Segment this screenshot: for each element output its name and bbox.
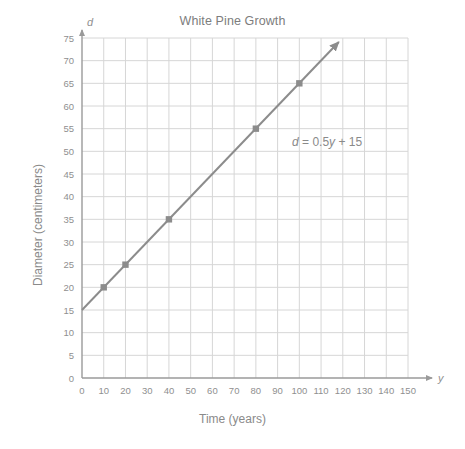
axis-variable-labels: dy: [87, 16, 445, 384]
x-tick-label: 80: [251, 385, 262, 396]
x-tick-label: 50: [185, 385, 196, 396]
y-tick-label: 65: [63, 78, 74, 89]
x-axis-variable-label: y: [437, 372, 445, 384]
y-tick-label: 40: [63, 191, 74, 202]
x-tick-label: 20: [120, 385, 131, 396]
y-tick-label: 55: [63, 123, 74, 134]
y-tick-label: 15: [63, 305, 74, 316]
y-axis-variable-label: d: [87, 16, 94, 28]
x-tick-label: 70: [229, 385, 240, 396]
y-tick-label: 75: [63, 33, 74, 44]
x-tick-label: 140: [378, 385, 394, 396]
x-tick-label: 60: [207, 385, 218, 396]
data-point-marker: [296, 80, 302, 86]
equation-annotation: d = 0.5y + 15: [292, 135, 362, 149]
x-tick-label: 120: [335, 385, 351, 396]
x-axis-title: Time (years): [0, 412, 465, 426]
y-axis-title: Diameter (centimeters): [31, 125, 45, 325]
data-point-marker: [101, 284, 107, 290]
chart-plot-area: 0102030405060708090100110120130140150 05…: [0, 0, 465, 449]
y-tick-label: 45: [63, 169, 74, 180]
x-tick-label: 10: [98, 385, 109, 396]
chart-container: White Pine Growth 0102030405060708090100…: [0, 0, 465, 449]
data-point-marker: [122, 261, 128, 267]
x-tick-labels: 0102030405060708090100110120130140150: [79, 385, 416, 396]
y-tick-label: 70: [63, 55, 74, 66]
x-tick-label: 90: [272, 385, 283, 396]
equation-text: d = 0.5y + 15: [292, 135, 362, 149]
axis-lines: [82, 30, 432, 378]
x-tick-label: 100: [291, 385, 307, 396]
x-tick-label: 130: [357, 385, 373, 396]
y-tick-label: 0: [69, 373, 74, 384]
y-tick-label: 60: [63, 101, 74, 112]
x-tick-label: 150: [400, 385, 416, 396]
grid-lines: [82, 38, 408, 378]
y-tick-label: 10: [63, 327, 74, 338]
x-tick-label: 110: [313, 385, 328, 396]
y-tick-labels: 051015202530354045505560657075: [63, 33, 74, 384]
y-tick-label: 35: [63, 214, 74, 225]
y-tick-label: 30: [63, 237, 74, 248]
x-tick-label: 30: [142, 385, 153, 396]
y-tick-label: 5: [69, 350, 74, 361]
x-tick-label: 0: [79, 385, 84, 396]
y-tick-label: 25: [63, 259, 74, 270]
y-tick-label: 50: [63, 146, 74, 157]
data-point-marker: [253, 125, 259, 131]
y-tick-label: 20: [63, 282, 74, 293]
data-point-marker: [166, 216, 172, 222]
x-tick-label: 40: [164, 385, 175, 396]
